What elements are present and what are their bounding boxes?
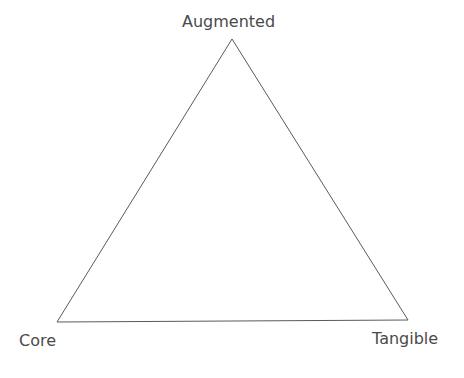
- label-tangible: Tangible: [372, 329, 438, 348]
- label-core: Core: [19, 331, 56, 350]
- triangle-shape: [57, 39, 408, 322]
- label-augmented: Augmented: [182, 12, 275, 31]
- triangle-diagram: [0, 0, 464, 378]
